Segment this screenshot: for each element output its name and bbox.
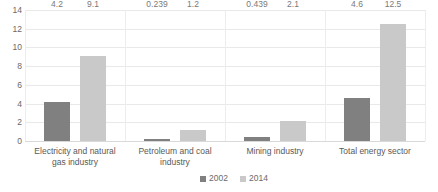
category-label: Mining industry: [225, 146, 325, 167]
category-axis-labels: Electricity and natural gas industryPetr…: [25, 146, 425, 167]
y-axis-tick-label: 0: [0, 137, 22, 146]
y-axis-tick-label: 4: [0, 99, 22, 108]
bar-value-label: 12.5: [385, 0, 402, 9]
bar-slot: 4.2: [44, 10, 70, 141]
bar[interactable]: 1.2: [180, 130, 206, 141]
legend-swatch-icon: [200, 176, 206, 182]
bar[interactable]: 12.5: [380, 24, 406, 141]
bar-value-label: 0.239: [146, 0, 167, 9]
y-axis: 02468101214: [0, 10, 22, 141]
bar-slot: 0.239: [144, 10, 170, 141]
bar[interactable]: 0.439: [244, 137, 270, 141]
bar-value-label: 9.1: [87, 0, 99, 9]
bar-group: 4.29.1: [25, 10, 125, 141]
bar-value-label: 1.2: [187, 0, 199, 9]
bar-group-bars: 0.4392.1: [225, 10, 325, 141]
bar-slot: 12.5: [380, 10, 406, 141]
bar-group-bars: 4.612.5: [325, 10, 425, 141]
bar-value-label: 4.6: [351, 0, 363, 9]
legend-item[interactable]: 2002: [200, 174, 228, 183]
bar[interactable]: 4.6: [344, 98, 370, 141]
category-label: Petroleum and coal industry: [125, 146, 225, 167]
chart-legend: 20022014: [0, 174, 438, 183]
bar-group-bars: 4.29.1: [25, 10, 125, 141]
bar-slot: 1.2: [180, 10, 206, 141]
bar-slot: 2.1: [280, 10, 306, 141]
y-axis-tick-label: 12: [0, 24, 22, 33]
bar-chart: 02468101214 4.29.10.2391.20.4392.14.612.…: [0, 0, 438, 192]
y-axis-tick-label: 10: [0, 43, 22, 52]
y-axis-tick-label: 6: [0, 81, 22, 90]
bar[interactable]: 0.239: [144, 139, 170, 141]
category-label: Electricity and natural gas industry: [25, 146, 125, 167]
plot-area: 4.29.10.2391.20.4392.14.612.5: [25, 10, 425, 141]
legend-label: 2014: [249, 174, 268, 183]
bar[interactable]: 4.2: [44, 102, 70, 141]
bar-slot: 4.6: [344, 10, 370, 141]
legend-item[interactable]: 2014: [240, 174, 268, 183]
bar-group-bars: 0.2391.2: [125, 10, 225, 141]
bar-value-label: 2.1: [287, 0, 299, 9]
bar[interactable]: 9.1: [80, 56, 106, 141]
bar-group: 0.4392.1: [225, 10, 325, 141]
y-axis-tick-label: 2: [0, 118, 22, 127]
category-label: Total energy sector: [325, 146, 425, 167]
y-axis-tick-label: 14: [0, 6, 22, 15]
bar-value-label: 0.439: [246, 0, 267, 9]
bar-groups: 4.29.10.2391.20.4392.14.612.5: [25, 10, 425, 141]
bar-slot: 9.1: [80, 10, 106, 141]
legend-swatch-icon: [240, 176, 246, 182]
y-axis-tick-label: 8: [0, 62, 22, 71]
bar[interactable]: 2.1: [280, 121, 306, 141]
bar-value-label: 4.2: [51, 0, 63, 9]
bar-group: 4.612.5: [325, 10, 425, 141]
bar-group: 0.2391.2: [125, 10, 225, 141]
bar-slot: 0.439: [244, 10, 270, 141]
plot-wrapper: 02468101214 4.29.10.2391.20.4392.14.612.…: [0, 0, 438, 145]
gridline: [425, 10, 426, 141]
gridline: [25, 141, 425, 142]
legend-label: 2002: [209, 174, 228, 183]
